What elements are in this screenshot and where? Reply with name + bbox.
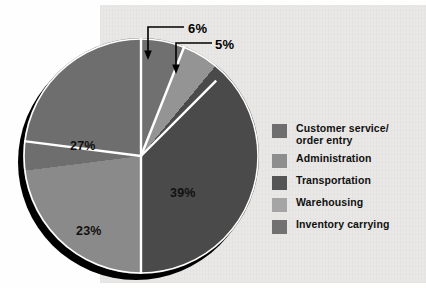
callout-label-5: 5% — [215, 37, 234, 52]
legend-swatch-transportation — [272, 176, 287, 190]
legend-label-administration: Administration — [296, 153, 371, 165]
legend-swatch-customer-service — [272, 124, 287, 138]
chart-figure: 39% 23% 27% 6% 5% Customer service/ orde… — [0, 0, 426, 288]
legend-item-administration[interactable]: Administration — [272, 153, 389, 168]
slice-label-27: 27% — [70, 139, 96, 153]
callout-label-6: 6% — [188, 21, 207, 36]
pie-slice-dividers — [23, 38, 259, 274]
legend-swatch-warehousing — [272, 198, 287, 212]
legend-swatch-inventory-carrying — [272, 220, 287, 234]
chart-legend: Customer service/ order entry Administra… — [272, 123, 389, 234]
legend-label-customer-service: Customer service/ order entry — [296, 123, 389, 146]
legend-swatch-administration — [272, 154, 287, 168]
slice-label-23: 23% — [76, 224, 102, 238]
pie-chart: 39% 23% 27% — [18, 38, 262, 282]
legend-label-inventory-carrying: Inventory carrying — [296, 219, 389, 231]
legend-item-customer-service[interactable]: Customer service/ order entry — [272, 123, 389, 146]
legend-item-transportation[interactable]: Transportation — [272, 175, 389, 190]
legend-item-warehousing[interactable]: Warehousing — [272, 197, 389, 212]
slice-label-39: 39% — [170, 186, 196, 200]
legend-label-warehousing: Warehousing — [296, 197, 363, 209]
legend-item-inventory-carrying[interactable]: Inventory carrying — [272, 219, 389, 234]
legend-label-transportation: Transportation — [296, 175, 371, 187]
